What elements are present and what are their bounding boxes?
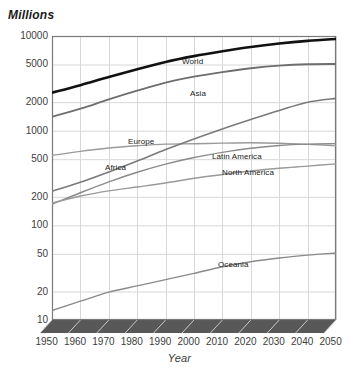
- series-label-latin-america: Latin America: [212, 152, 262, 161]
- x-axis-tick-label: 2000: [174, 336, 204, 347]
- plot-area: [0, 0, 359, 373]
- series-label-north-america: North America: [222, 168, 274, 177]
- x-axis-tick-label: 1990: [145, 336, 175, 347]
- x-axis-tick-label: 2020: [230, 336, 260, 347]
- series-label-europe: Europe: [128, 137, 154, 146]
- x-axis-tick-label: 1950: [32, 336, 62, 347]
- series-label-asia: Asia: [190, 89, 206, 98]
- series-label-world: World: [182, 57, 203, 66]
- x-axis-tick-label: 2040: [287, 336, 317, 347]
- x-axis-tick-label: 2030: [259, 336, 289, 347]
- x-axis-title: Year: [0, 352, 359, 364]
- x-axis-tick-label: 2010: [202, 336, 232, 347]
- x-axis-tick-label: 2050: [316, 336, 346, 347]
- series-label-oceania: Oceania: [218, 260, 249, 269]
- population-line-chart: Millions 1000050002000100050020010050201…: [0, 0, 359, 373]
- x-axis-tick-label: 1960: [60, 336, 90, 347]
- series-label-africa: Africa: [105, 163, 126, 172]
- x-axis-tick-label: 1970: [88, 336, 118, 347]
- x-axis-tick-label: 1980: [117, 336, 147, 347]
